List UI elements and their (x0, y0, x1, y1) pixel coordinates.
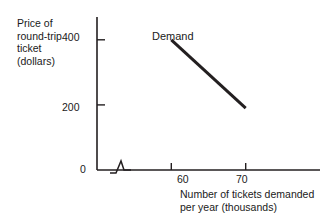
x-axis-break-icon (110, 161, 131, 173)
demand-curve-figure: Price of round-trip ticket (dollars) 400… (0, 0, 335, 223)
demand-curve-line (171, 40, 245, 108)
chart-axes-layer (0, 0, 335, 223)
